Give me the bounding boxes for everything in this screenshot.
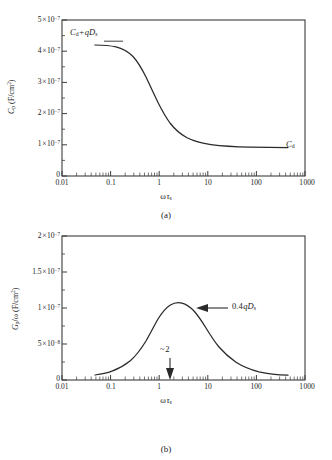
panel-a-upper-plateau-label: Cd + qDs [70, 27, 97, 37]
panel-a-xtick-0.1: 0.1 [97, 178, 125, 187]
panel-a-curve [95, 45, 288, 148]
panel-a-ytick-1: 1 × 10−7 [6, 139, 60, 148]
panel-a-x-major-ticks [62, 171, 305, 176]
panel-a-xtick-100: 100 [242, 178, 270, 187]
panel-a-xtick-1: 1 [145, 178, 173, 187]
panel-a-xtick-0.01: 0.01 [48, 178, 76, 187]
panel-b-peak-position-arrow [166, 358, 174, 380]
panel-a-ytick-4: 4 × 10−7 [6, 46, 60, 55]
panel-a-xtick-1000: 1 000 [290, 178, 324, 187]
panel-a-caption: (a) [0, 210, 332, 220]
panel-b-xtick-10: 10 [194, 382, 222, 391]
panel-a: 5 × 10−7 4 × 10−7 3 × 10−7 2 × 10−7 1 × … [0, 0, 332, 228]
panel-b-y-major-ticks [62, 236, 67, 380]
panel-b-curve [95, 303, 288, 375]
panel-b-caption: (b) [0, 444, 332, 454]
panel-b-axes-frame [62, 236, 305, 380]
panel-b-xtick-0.1: 0.1 [97, 382, 125, 391]
panel-b-xtick-0.01: 0.01 [48, 382, 76, 391]
panel-b-xtick-100: 100 [242, 382, 270, 391]
panel-a-xtick-10: 10 [194, 178, 222, 187]
panel-a-ytick-5: 5 × 10−7 [6, 15, 60, 24]
panel-b-xtick-1000: 1 000 [290, 382, 324, 391]
panel-b-peak-position-label: ~ 2 [160, 344, 170, 354]
panel-b-ytick-2e-7: 2 × 10−7 [2, 231, 60, 240]
panel-a-y-axis-title: Cp (F/cm2) [6, 62, 15, 132]
panel-a-x-axis-title: ω τs [0, 191, 332, 201]
panel-b-xtick-1: 1 [145, 382, 173, 391]
panel-a-axes-frame [62, 20, 305, 176]
panel-b-peak-value-label: 0.4 qDs [232, 301, 256, 311]
figure-container: 5 × 10−7 4 × 10−7 3 × 10−7 2 × 10−7 1 × … [0, 0, 332, 460]
panel-b-y-axis-title: Gp/ω (F/cm2) [10, 261, 19, 357]
panel-b-x-axis-title: ω τs [0, 395, 332, 405]
panel-b-x-major-ticks [62, 375, 305, 380]
panel-b-peak-value-arrow [196, 304, 228, 312]
panel-a-lower-plateau-label: Cd [286, 139, 295, 149]
panel-b: 2 × 10−7 1.5 × 10−7 1 × 10−7 5 × 10−8 0 … [0, 228, 332, 460]
